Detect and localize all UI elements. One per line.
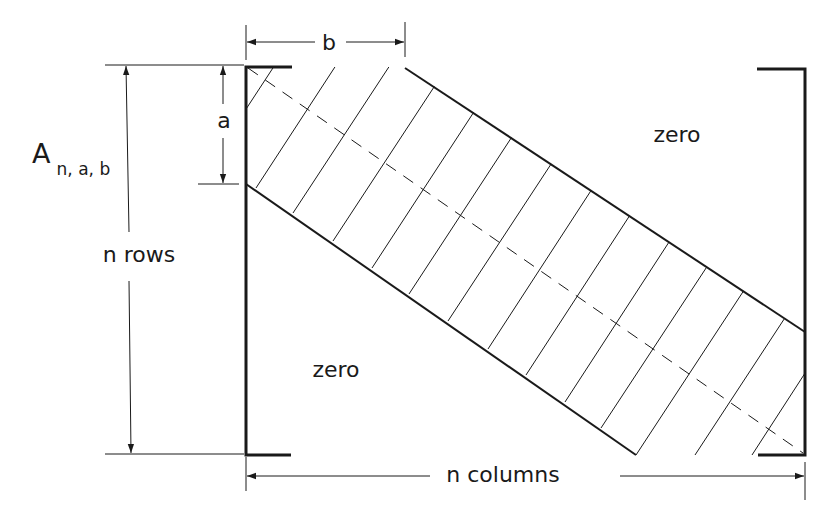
banded-matrix-diagram: b a n rows n columns zero zero A n, a, b: [0, 0, 836, 528]
b-label: b: [322, 30, 336, 55]
lower-zero-label: zero: [312, 357, 359, 382]
upper-zero-label: zero: [653, 122, 700, 147]
band-lower-edge: [246, 184, 636, 455]
rows-label: n rows: [103, 242, 175, 267]
main-diagonal: [248, 68, 803, 453]
matrix-name-main: A: [32, 138, 51, 169]
columns-label: n columns: [446, 462, 559, 487]
band-upper-edge: [405, 68, 805, 332]
matrix-name-subscript: n, a, b: [57, 159, 111, 179]
right-bracket: [757, 69, 805, 455]
matrix-name: A n, a, b: [32, 138, 110, 179]
left-bracket: [246, 67, 292, 455]
a-label: a: [217, 108, 230, 133]
